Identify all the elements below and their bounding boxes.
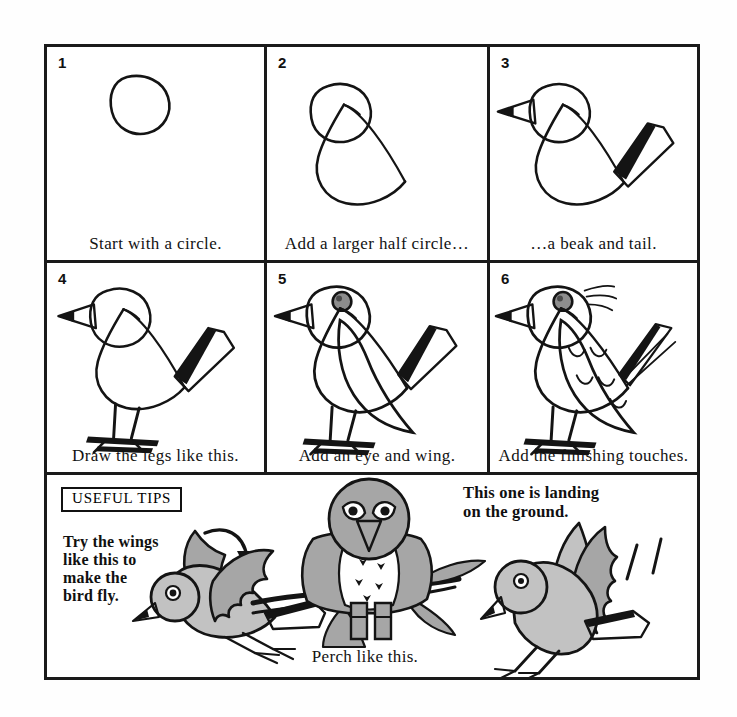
step-panel-1: 1 Start with a circle.	[47, 47, 264, 260]
step-panel-2: 2 Add a larger half circle…	[264, 47, 487, 260]
tutorial-frame: 1 Start with a circle. 2 Add a larger ha…	[44, 44, 700, 680]
step-caption-4: Draw the legs like this.	[47, 446, 264, 466]
step-panel-3: 3 …a beak and tail.	[487, 47, 697, 260]
step-6-artwork	[490, 263, 697, 472]
step-caption-2: Add a larger half circle…	[267, 234, 487, 254]
step-panel-4: 4 Draw the legs like this.	[47, 260, 264, 472]
step-caption-5: Add an eye and wing.	[267, 446, 487, 466]
step-3-artwork	[490, 47, 697, 260]
step-2-artwork	[267, 47, 487, 260]
step-panel-6: 6	[487, 260, 697, 472]
perching-bird-illustration	[247, 479, 497, 649]
step-caption-6: Add the finishing touches.	[490, 446, 697, 466]
step-caption-1: Start with a circle.	[47, 234, 264, 254]
landing-bird-illustration	[481, 521, 691, 677]
useful-tips-badge: USEFUL TIPS	[61, 487, 182, 512]
step-4-artwork	[47, 263, 264, 472]
useful-tips-section: USEFUL TIPS Try the wings like this to m…	[47, 472, 697, 677]
step-1-artwork	[47, 47, 264, 260]
step-panel-5: 5	[264, 260, 487, 472]
drawing-tutorial-sheet: 1 Start with a circle. 2 Add a larger ha…	[0, 0, 737, 717]
step-5-artwork	[267, 263, 487, 472]
step-caption-3: …a beak and tail.	[490, 234, 697, 254]
